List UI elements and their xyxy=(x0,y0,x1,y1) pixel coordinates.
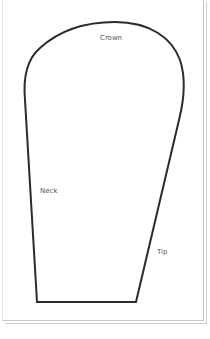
tip-label: Tip xyxy=(157,249,167,256)
crown-label: Crown xyxy=(100,35,122,42)
neck-label: Neck xyxy=(40,188,57,195)
outline-shape xyxy=(0,0,210,339)
